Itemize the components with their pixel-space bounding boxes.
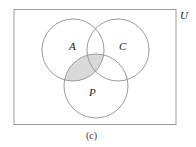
- caption: (c): [86, 130, 97, 141]
- set-label-c: C: [119, 40, 126, 52]
- universe-label: U: [180, 9, 188, 21]
- set-label-a: A: [69, 40, 76, 52]
- set-label-p: P: [89, 86, 96, 98]
- venn-diagram: [0, 0, 196, 147]
- circle-c: [87, 19, 149, 81]
